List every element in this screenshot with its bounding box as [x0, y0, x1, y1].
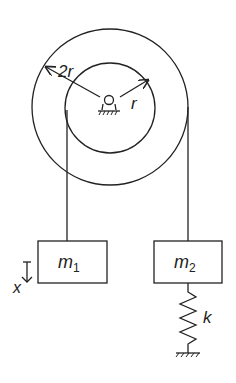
- mass-2-label: m2: [174, 252, 196, 275]
- outer-pulley: [32, 29, 188, 185]
- ground-icon: [176, 353, 200, 357]
- displacement-arrow: [22, 262, 32, 282]
- spring: [180, 283, 196, 353]
- pulley-diagram: 2r r m1 m2 k x: [0, 0, 236, 383]
- displacement-label: x: [12, 279, 22, 296]
- pin-support-icon: [98, 96, 120, 116]
- mass-1-label: m1: [58, 252, 80, 275]
- outer-radius-label: 2r: [57, 62, 74, 81]
- spring-label: k: [203, 308, 213, 327]
- inner-radius-label: r: [131, 94, 138, 113]
- inner-pulley: [65, 63, 155, 153]
